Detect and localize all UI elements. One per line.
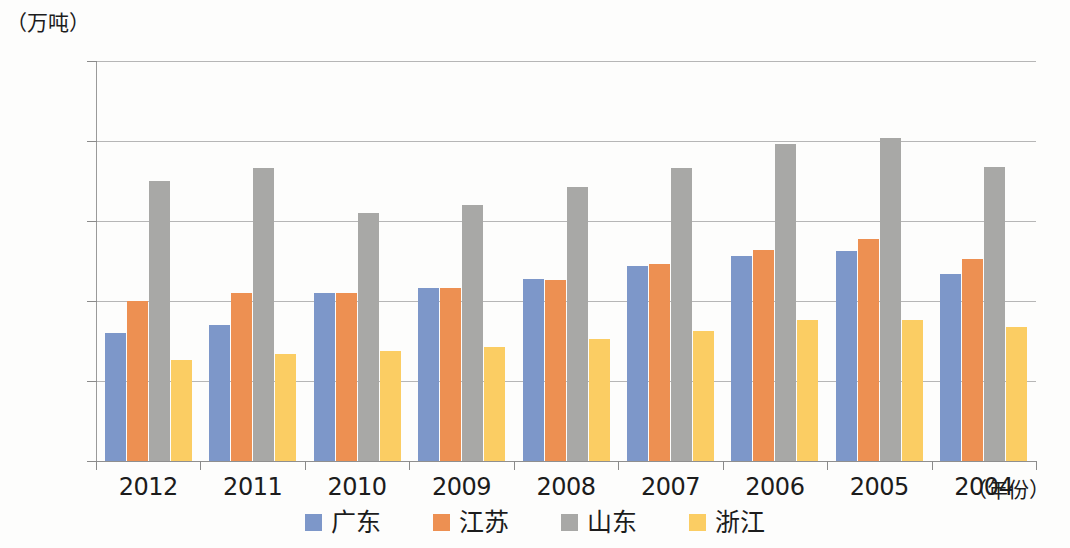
x-tick-label-2011: 2011 — [193, 473, 313, 501]
x-tick-mark — [932, 461, 933, 470]
legend-item-山东[interactable]: 山东 — [561, 510, 637, 535]
bar-group — [105, 61, 192, 461]
x-tick-label-2012: 2012 — [88, 473, 208, 501]
bar-group — [314, 61, 401, 461]
bar-江苏-2007 — [649, 264, 670, 461]
y-axis-line — [96, 61, 97, 462]
y-tick-mark — [87, 61, 97, 62]
y-tick-mark — [87, 141, 97, 142]
bar-group — [523, 61, 610, 461]
x-tick-label-2009: 2009 — [402, 473, 522, 501]
bar-chart: （万吨） 050100150200250 2012201120102009200… — [0, 0, 1070, 548]
bar-江苏-2008 — [545, 280, 566, 461]
bar-group — [940, 61, 1027, 461]
bar-山东-2004 — [984, 167, 1005, 461]
bar-group — [627, 61, 714, 461]
x-tick-mark — [96, 461, 97, 470]
bar-江苏-2006 — [753, 250, 774, 461]
legend-item-广东[interactable]: 广东 — [305, 510, 381, 535]
bar-浙江-2008 — [589, 339, 610, 461]
legend-label: 山东 — [587, 510, 637, 535]
x-axis-line — [96, 461, 1036, 462]
y-tick-mark — [87, 381, 97, 382]
bar-山东-2012 — [149, 181, 170, 461]
bar-浙江-2007 — [693, 331, 714, 461]
x-tick-mark — [827, 461, 828, 470]
bar-广东-2010 — [314, 293, 335, 461]
x-tick-mark — [1036, 461, 1037, 470]
bar-江苏-2009 — [440, 288, 461, 461]
x-tick-label-2006: 2006 — [715, 473, 835, 501]
chart-legend: 广东江苏山东浙江 — [0, 510, 1070, 535]
bar-浙江-2005 — [902, 320, 923, 461]
x-tick-mark — [200, 461, 201, 470]
y-tick-mark — [87, 221, 97, 222]
bar-广东-2008 — [523, 279, 544, 461]
bar-江苏-2005 — [858, 239, 879, 461]
y-axis-unit-label: （万吨） — [6, 6, 90, 36]
bar-山东-2011 — [253, 168, 274, 461]
x-tick-label-2010: 2010 — [297, 473, 417, 501]
legend-item-江苏[interactable]: 江苏 — [433, 510, 509, 535]
x-tick-mark — [723, 461, 724, 470]
legend-swatch-icon — [305, 514, 322, 531]
x-tick-label-2008: 2008 — [506, 473, 626, 501]
bar-浙江-2012 — [171, 360, 192, 461]
bar-广东-2005 — [836, 251, 857, 461]
bar-广东-2007 — [627, 266, 648, 461]
bar-广东-2011 — [209, 325, 230, 461]
bar-山东-2007 — [671, 168, 692, 461]
x-tick-mark — [618, 461, 619, 470]
bar-江苏-2004 — [962, 259, 983, 461]
legend-item-浙江[interactable]: 浙江 — [689, 510, 765, 535]
bar-浙江-2011 — [275, 354, 296, 461]
bar-山东-2005 — [880, 138, 901, 461]
bar-广东-2012 — [105, 333, 126, 461]
x-tick-mark — [409, 461, 410, 470]
bar-浙江-2009 — [484, 347, 505, 461]
y-tick-mark — [87, 301, 97, 302]
bar-group — [836, 61, 923, 461]
legend-swatch-icon — [433, 514, 450, 531]
bar-浙江-2010 — [380, 351, 401, 461]
bar-group — [418, 61, 505, 461]
legend-swatch-icon — [689, 514, 706, 531]
bar-江苏-2012 — [127, 301, 148, 461]
bar-江苏-2010 — [336, 293, 357, 461]
legend-label: 广东 — [331, 510, 381, 535]
x-tick-mark — [305, 461, 306, 470]
x-tick-mark — [514, 461, 515, 470]
x-axis-unit-label: （年份） — [966, 473, 1050, 503]
bar-group — [731, 61, 818, 461]
bar-山东-2009 — [462, 205, 483, 461]
legend-label: 浙江 — [715, 510, 765, 535]
x-tick-label-2007: 2007 — [610, 473, 730, 501]
plot-area: 050100150200250 201220112010200920082007… — [96, 61, 1036, 462]
bar-山东-2008 — [567, 187, 588, 461]
bar-浙江-2006 — [797, 320, 818, 461]
bar-江苏-2011 — [231, 293, 252, 461]
bar-山东-2006 — [775, 144, 796, 461]
bar-山东-2010 — [358, 213, 379, 461]
x-tick-label-2005: 2005 — [819, 473, 939, 501]
bar-广东-2006 — [731, 256, 752, 461]
bar-group — [209, 61, 296, 461]
bar-浙江-2004 — [1006, 327, 1027, 461]
legend-label: 江苏 — [459, 510, 509, 535]
bar-广东-2009 — [418, 288, 439, 461]
bar-广东-2004 — [940, 274, 961, 461]
legend-swatch-icon — [561, 514, 578, 531]
